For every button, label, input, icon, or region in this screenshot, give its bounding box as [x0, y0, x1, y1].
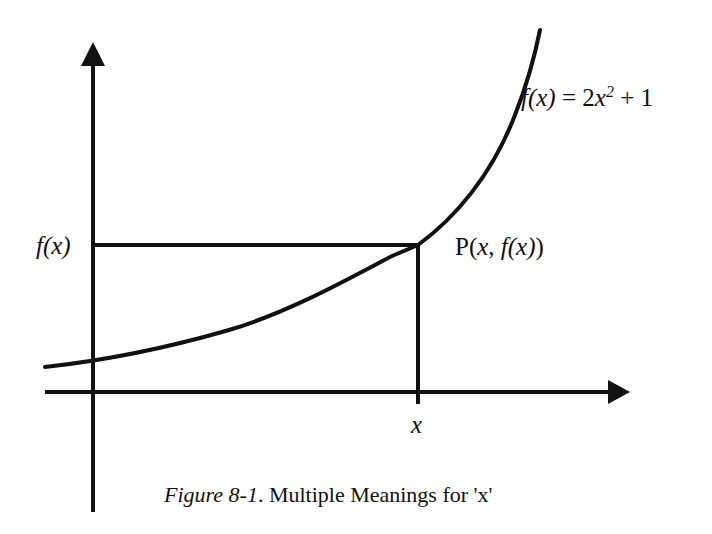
figure-caption-id: Figure 8-1 [164, 482, 258, 507]
figure-container: f(x) = 2x2 + 1 P(x, f(x)) f(x) x Figure … [0, 0, 712, 534]
x-axis-value-label: x [411, 412, 422, 437]
point-p-label: P(x, f(x)) [455, 234, 544, 259]
y-axis-arrowhead [81, 42, 105, 66]
curve-equation-equals: = 2 [556, 84, 595, 111]
point-p-comma: , [488, 233, 501, 260]
curve-equation-label: f(x) = 2x2 + 1 [521, 84, 653, 110]
x-axis-arrowhead [608, 380, 630, 404]
figure-caption-text: Multiple Meanings for 'x' [263, 482, 492, 507]
figure-caption: Figure 8-1. Multiple Meanings for 'x' [164, 484, 493, 506]
curve-equation-tail: + 1 [614, 84, 653, 111]
function-curve [45, 30, 540, 367]
curve-equation-variable: x [595, 84, 606, 111]
graph-canvas [0, 0, 712, 534]
y-axis-value-label: f(x) [36, 233, 71, 258]
point-p-prefix: P( [455, 233, 477, 260]
curve-equation-fx: f(x) [521, 84, 556, 111]
point-p-fx: f(x) [501, 233, 536, 260]
point-p-x: x [477, 233, 488, 260]
point-p-suffix: ) [536, 233, 544, 260]
curve-equation-exponent: 2 [606, 83, 614, 100]
